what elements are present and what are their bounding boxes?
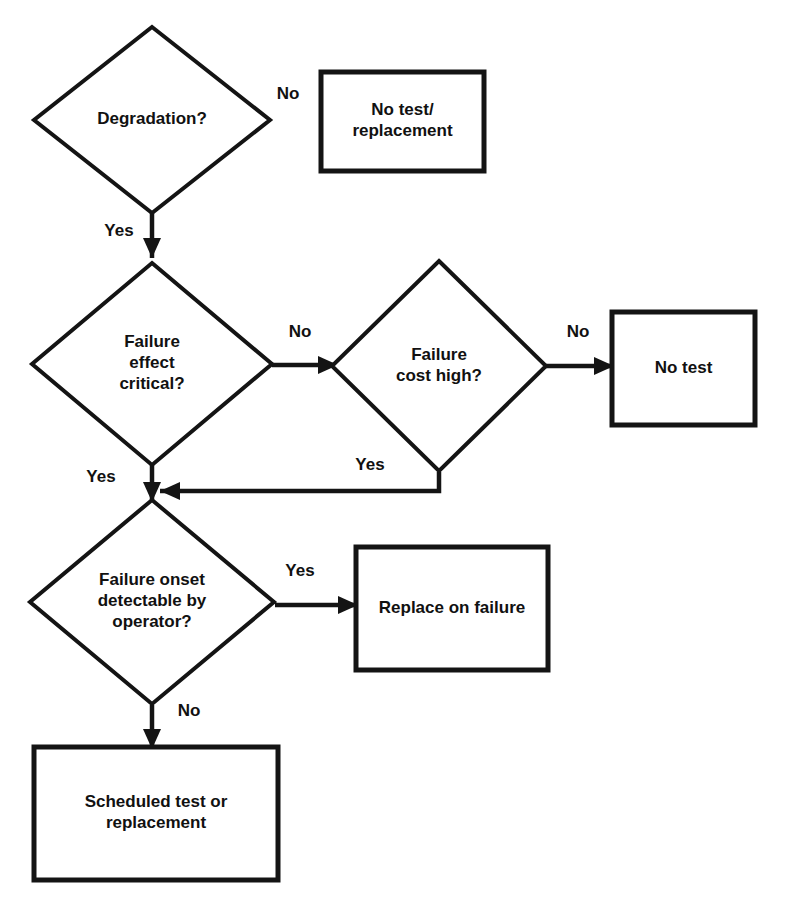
node-failure-effect-critical[interactable]: Failureeffectcritical? (32, 263, 272, 465)
edge-effect-critical-yes (143, 463, 161, 502)
edge-effect-critical-no (272, 356, 338, 374)
flowchart-canvas: Degradation?No test/replacementFailureef… (0, 0, 786, 909)
edge-label-onset-detectable-no: No (178, 701, 201, 720)
edge-cost-high-no (546, 357, 614, 375)
node-label-failure-onset-detectable: Failure onsetdetectable byoperator? (98, 570, 207, 631)
arrow-head-cost-high-yes (160, 482, 180, 500)
flowchart-container: Degradation?No test/replacementFailureef… (0, 0, 786, 909)
edge-label-degradation-no: No (277, 84, 300, 103)
edge-label-degradation-yes: Yes (104, 221, 133, 240)
edge-degradation-yes (143, 213, 161, 258)
node-label-no-test: No test (655, 358, 713, 377)
node-no-test[interactable]: No test (612, 312, 755, 425)
edge-onset-detectable-yes (275, 596, 358, 614)
edge-label-onset-detectable-yes: Yes (285, 561, 314, 580)
edge-label-cost-high-yes: Yes (355, 455, 384, 474)
edge-line-cost-high-yes (160, 472, 439, 491)
node-label-degradation: Degradation? (97, 109, 207, 128)
edge-onset-detectable-no (143, 705, 161, 749)
node-label-replace-on-failure: Replace on failure (379, 598, 525, 617)
edge-label-effect-critical-yes: Yes (86, 467, 115, 486)
node-degradation[interactable]: Degradation? (34, 27, 270, 213)
nodes-layer: Degradation?No test/replacementFailureef… (30, 27, 755, 880)
node-no-test-replacement[interactable]: No test/replacement (321, 72, 484, 171)
node-scheduled-test-or-replacement[interactable]: Scheduled test orreplacement (34, 747, 278, 880)
node-failure-cost-high[interactable]: Failurecost high? (332, 261, 546, 471)
edge-label-effect-critical-no: No (289, 322, 312, 341)
node-failure-onset-detectable[interactable]: Failure onsetdetectable byoperator? (30, 500, 274, 704)
edge-cost-high-yes (160, 472, 439, 500)
edge-label-cost-high-no: No (567, 322, 590, 341)
arrow-head-degradation-yes (143, 238, 161, 258)
node-replace-on-failure[interactable]: Replace on failure (356, 547, 548, 670)
